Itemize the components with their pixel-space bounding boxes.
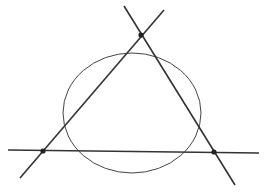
horizontal-line (8, 150, 259, 153)
diagram-canvas (0, 0, 268, 192)
ellipse (63, 53, 201, 173)
left-vertex-point (40, 148, 45, 153)
right-vertex-point (211, 149, 216, 154)
top-vertex-point (138, 32, 143, 37)
